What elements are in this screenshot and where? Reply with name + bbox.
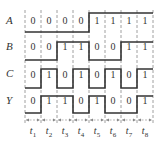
arrow-icon bbox=[138, 119, 141, 122]
bit-value-c: 0 bbox=[121, 69, 137, 80]
arrow-icon bbox=[85, 119, 88, 122]
arrow-icon bbox=[58, 119, 61, 122]
arrow-icon bbox=[117, 119, 120, 122]
bit-value-y: 1 bbox=[89, 95, 105, 106]
arrow-icon bbox=[42, 119, 45, 122]
bit-value-c: 0 bbox=[89, 69, 105, 80]
signal-label-c: C bbox=[6, 67, 13, 79]
bit-value-y: 0 bbox=[25, 95, 41, 106]
bit-value-b: 1 bbox=[73, 41, 89, 52]
bit-value-a: 0 bbox=[41, 15, 57, 26]
bit-value-a: 0 bbox=[57, 15, 73, 26]
bit-value-c: 1 bbox=[73, 69, 89, 80]
time-label: t3 bbox=[57, 125, 73, 139]
signal-label-y: Y bbox=[6, 94, 12, 106]
bit-value-b: 1 bbox=[137, 41, 153, 52]
bit-value-a: 1 bbox=[121, 15, 137, 26]
arrow-icon bbox=[26, 119, 29, 122]
arrow-icon bbox=[37, 119, 40, 122]
time-label: t2 bbox=[41, 125, 57, 139]
arrow-icon bbox=[53, 119, 56, 122]
bit-value-b: 1 bbox=[121, 41, 137, 52]
bit-value-y: 0 bbox=[121, 95, 137, 106]
bit-value-c: 1 bbox=[137, 69, 153, 80]
bit-value-b: 0 bbox=[25, 41, 41, 52]
bit-value-y: 1 bbox=[41, 95, 57, 106]
bit-value-b: 0 bbox=[89, 41, 105, 52]
bit-value-c: 1 bbox=[105, 69, 121, 80]
arrow-icon bbox=[122, 119, 125, 122]
bit-value-a: 0 bbox=[25, 15, 41, 26]
time-label: t6 bbox=[105, 125, 121, 139]
arrow-icon bbox=[101, 119, 104, 122]
arrow-icon bbox=[149, 119, 152, 122]
signal-label-b: B bbox=[6, 40, 13, 52]
bit-value-y: 0 bbox=[73, 95, 89, 106]
timing-diagram: A B C Y 00001111001100110101010101101001… bbox=[0, 0, 163, 142]
bit-value-a: 1 bbox=[137, 15, 153, 26]
bit-value-b: 0 bbox=[41, 41, 57, 52]
bit-value-y: 1 bbox=[57, 95, 73, 106]
arrow-icon bbox=[106, 119, 109, 122]
bit-value-b: 0 bbox=[105, 41, 121, 52]
arrow-icon bbox=[74, 119, 77, 122]
signal-label-a: A bbox=[6, 14, 13, 26]
arrow-icon bbox=[69, 119, 72, 122]
bit-value-a: 1 bbox=[89, 15, 105, 26]
bit-value-b: 1 bbox=[57, 41, 73, 52]
bit-value-c: 0 bbox=[25, 69, 41, 80]
bit-value-c: 0 bbox=[57, 69, 73, 80]
time-label: t5 bbox=[89, 125, 105, 139]
time-label: t4 bbox=[73, 125, 89, 139]
bit-value-a: 0 bbox=[73, 15, 89, 26]
time-label: t7 bbox=[121, 125, 137, 139]
time-label: t1 bbox=[25, 125, 41, 139]
bit-value-c: 1 bbox=[41, 69, 57, 80]
time-label: t8 bbox=[137, 125, 153, 139]
bit-value-y: 1 bbox=[137, 95, 153, 106]
bit-value-a: 1 bbox=[105, 15, 121, 26]
arrow-icon bbox=[90, 119, 93, 122]
arrow-icon bbox=[133, 119, 136, 122]
bit-value-y: 0 bbox=[105, 95, 121, 106]
